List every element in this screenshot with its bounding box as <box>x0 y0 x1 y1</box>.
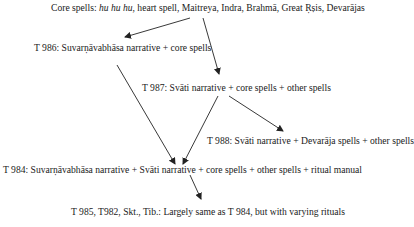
edge-t984-to-t985 <box>190 175 201 199</box>
edge-t986-to-t984 <box>117 65 175 164</box>
core-suffix: , heart spell, Maitreya, Indra, Brahmā, … <box>133 2 365 13</box>
edge-t987-to-t984 <box>183 96 218 164</box>
node-t985: T 985, T982, Skt., Tib.: Largely same as… <box>71 206 345 218</box>
node-t986: T 986: Suvarṇāvabhāsa narrative + core s… <box>34 42 211 54</box>
node-t988: T 988: Svāti narrative + Devarāja spells… <box>207 135 414 147</box>
core-prefix: Core spells: <box>51 2 99 13</box>
edge-core-to-t986 <box>125 18 190 37</box>
node-t984: T 984: Suvarṇāvabhāsa narrative + Svāti … <box>3 164 362 176</box>
node-core-spells: Core spells: hu hu hu, heart spell, Mait… <box>51 2 365 14</box>
edge-t987-to-t988 <box>229 96 283 131</box>
core-italic: hu hu hu <box>99 2 133 13</box>
node-t987: T 987: Svāti narrative + core spells + o… <box>142 82 331 94</box>
